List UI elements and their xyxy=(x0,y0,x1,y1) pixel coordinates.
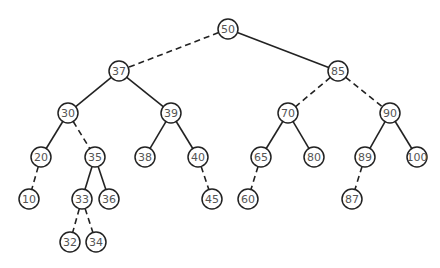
tree-node-40: 40 xyxy=(188,147,208,167)
tree-node-87: 87 xyxy=(342,189,362,209)
node-label: 34 xyxy=(89,236,103,249)
tree-node-90: 90 xyxy=(380,103,400,123)
tree-nodes: 5037853039709020353840658089100103336456… xyxy=(19,19,428,252)
edge-85-70 xyxy=(296,77,331,106)
node-label: 32 xyxy=(63,236,77,249)
node-label: 85 xyxy=(331,65,345,78)
tree-node-30: 30 xyxy=(58,103,78,123)
tree-node-89: 89 xyxy=(355,147,375,167)
node-label: 10 xyxy=(22,193,36,206)
edge-30-20 xyxy=(46,122,63,149)
node-label: 33 xyxy=(75,193,89,206)
edge-70-80 xyxy=(293,122,309,149)
node-label: 30 xyxy=(61,107,75,120)
node-label: 80 xyxy=(307,151,321,164)
edge-35-36 xyxy=(98,166,106,189)
tree-node-36: 36 xyxy=(99,189,119,209)
edge-90-89 xyxy=(370,122,385,149)
node-label: 38 xyxy=(138,151,152,164)
edge-50-85 xyxy=(237,33,328,68)
node-label: 50 xyxy=(221,23,235,36)
edge-50-37 xyxy=(128,33,218,68)
node-label: 37 xyxy=(112,65,126,78)
node-label: 87 xyxy=(345,193,359,206)
tree-node-45: 45 xyxy=(202,189,222,209)
node-label: 36 xyxy=(102,193,116,206)
tree-node-20: 20 xyxy=(31,147,51,167)
edge-39-40 xyxy=(176,122,193,149)
tree-node-35: 35 xyxy=(85,147,105,167)
edge-37-30 xyxy=(76,77,112,106)
edge-89-87 xyxy=(355,167,362,190)
tree-node-32: 32 xyxy=(60,232,80,252)
edge-20-10 xyxy=(32,167,39,190)
edge-39-38 xyxy=(150,122,166,149)
edge-37-39 xyxy=(127,77,163,106)
node-label: 20 xyxy=(34,151,48,164)
tree-node-60: 60 xyxy=(238,189,258,209)
edge-40-45 xyxy=(201,166,209,189)
node-label: 65 xyxy=(254,151,268,164)
tree-node-33: 33 xyxy=(72,189,92,209)
edge-65-60 xyxy=(251,167,258,190)
edge-33-32 xyxy=(73,209,80,233)
node-label: 100 xyxy=(407,151,428,164)
edge-70-65 xyxy=(266,122,283,149)
node-label: 89 xyxy=(358,151,372,164)
node-label: 45 xyxy=(205,193,219,206)
edge-90-100 xyxy=(395,122,412,149)
node-label: 35 xyxy=(88,151,102,164)
edge-35-33 xyxy=(85,167,92,190)
tree-node-100: 100 xyxy=(407,147,428,167)
tree-node-10: 10 xyxy=(19,189,39,209)
edge-30-35 xyxy=(73,122,90,149)
edge-33-34 xyxy=(85,209,93,233)
tree-node-34: 34 xyxy=(86,232,106,252)
node-label: 40 xyxy=(191,151,205,164)
tree-node-38: 38 xyxy=(135,147,155,167)
binary-search-tree-diagram: 5037853039709020353840658089100103336456… xyxy=(0,0,440,268)
tree-node-37: 37 xyxy=(109,61,129,81)
node-label: 70 xyxy=(281,107,295,120)
node-label: 39 xyxy=(164,107,178,120)
tree-node-70: 70 xyxy=(278,103,298,123)
tree-node-65: 65 xyxy=(251,147,271,167)
tree-node-85: 85 xyxy=(328,61,348,81)
node-label: 60 xyxy=(241,193,255,206)
tree-node-39: 39 xyxy=(161,103,181,123)
tree-node-50: 50 xyxy=(218,19,238,39)
tree-node-80: 80 xyxy=(304,147,324,167)
node-label: 90 xyxy=(383,107,397,120)
edge-85-90 xyxy=(346,77,382,106)
